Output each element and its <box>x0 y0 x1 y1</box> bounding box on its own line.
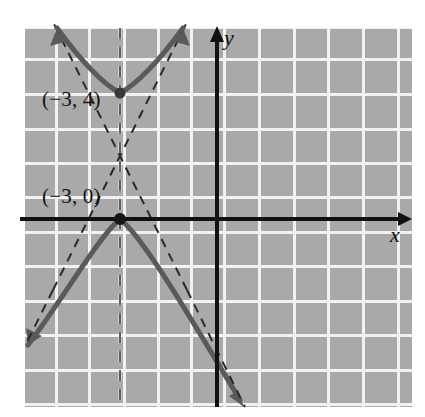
asymptote-extension-upper-left <box>45 22 53 38</box>
x-axis-arrowhead <box>398 212 412 226</box>
point-label-vertex-lower: (−3, 0) <box>42 184 101 209</box>
vertex-point-lower <box>114 213 126 225</box>
y-axis-arrowhead <box>210 26 224 42</box>
asymptote-negative-slope <box>53 22 187 290</box>
figure-canvas: (−3, 4) (−3, 0) y x <box>0 0 425 417</box>
vertex-point-upper <box>115 88 126 99</box>
point-label-vertex-upper: (−3, 4) <box>42 87 101 112</box>
axis-label-y: y <box>224 25 234 51</box>
hyperbola-lower-branch <box>28 219 240 400</box>
axis-label-x: x <box>390 222 400 248</box>
